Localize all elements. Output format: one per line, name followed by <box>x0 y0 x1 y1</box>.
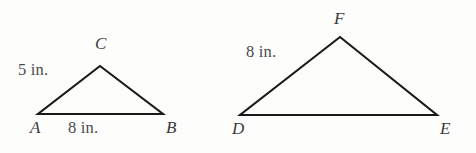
vertex-label-a: A <box>30 119 40 136</box>
side-measure-ab: 8 in. <box>68 120 98 137</box>
vertex-label-d: D <box>232 120 244 137</box>
vertex-label-b: B <box>166 119 176 136</box>
vertex-label-f: F <box>334 10 344 27</box>
vertex-label-c: C <box>95 35 106 52</box>
geometry-figure: A B C 5 in. 8 in. D E F 8 in. <box>0 0 476 153</box>
triangle-abc-shape <box>38 66 163 114</box>
triangle-abc-outline <box>38 66 163 114</box>
side-measure-ac: 5 in. <box>18 62 48 79</box>
side-measure-df: 8 in. <box>246 44 276 61</box>
vertex-label-e: E <box>440 120 450 137</box>
